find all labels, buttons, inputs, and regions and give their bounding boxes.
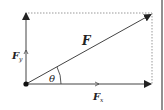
label-theta: θ — [49, 73, 55, 84]
f-resultant-arrow — [26, 15, 151, 85]
label-f: F — [81, 34, 92, 48]
force-diagram: F F y F x θ — [0, 0, 164, 110]
label-fy-subscript: y — [18, 55, 23, 63]
theta-angle-arc — [57, 67, 61, 84]
origin-point — [23, 81, 28, 86]
label-fx-subscript: x — [100, 96, 104, 103]
